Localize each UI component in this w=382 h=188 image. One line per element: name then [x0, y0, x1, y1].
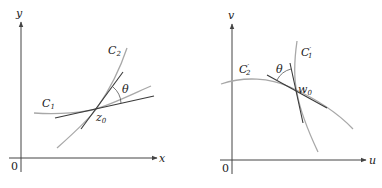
curve-c1-label: C1	[42, 97, 55, 111]
v-axis-label-text: v	[228, 9, 235, 22]
tangent-c1	[55, 96, 154, 118]
angle-theta-prime-label: θ	[276, 63, 283, 76]
origin-label: 0	[11, 160, 18, 173]
curve-c1-prime-label: C′1	[301, 46, 312, 60]
curve-c2	[57, 48, 127, 148]
origin-label-prime: 0	[222, 162, 229, 175]
angle-theta-label: θ	[122, 83, 129, 96]
u-axis-label: u	[369, 154, 376, 167]
z-plane-panel: y x 0 C1 C2 z0 θ	[9, 7, 166, 173]
tangent-c2-prime	[267, 75, 327, 108]
w-plane-panel: v u 0 C′1 C′2 w0 θ	[220, 9, 376, 175]
conformal-mapping-diagram: y x 0 C1 C2 z0 θ v u 0 C′1 C′2 w0 θ	[0, 0, 382, 188]
point-z0-label: z0	[95, 111, 107, 125]
point-w0-label: w0	[298, 83, 312, 97]
y-axis-label: y	[15, 7, 23, 20]
x-axis-label: x	[159, 152, 166, 165]
curve-c2-prime-label: C′2	[239, 63, 251, 77]
curve-c2-label: C2	[108, 44, 121, 58]
